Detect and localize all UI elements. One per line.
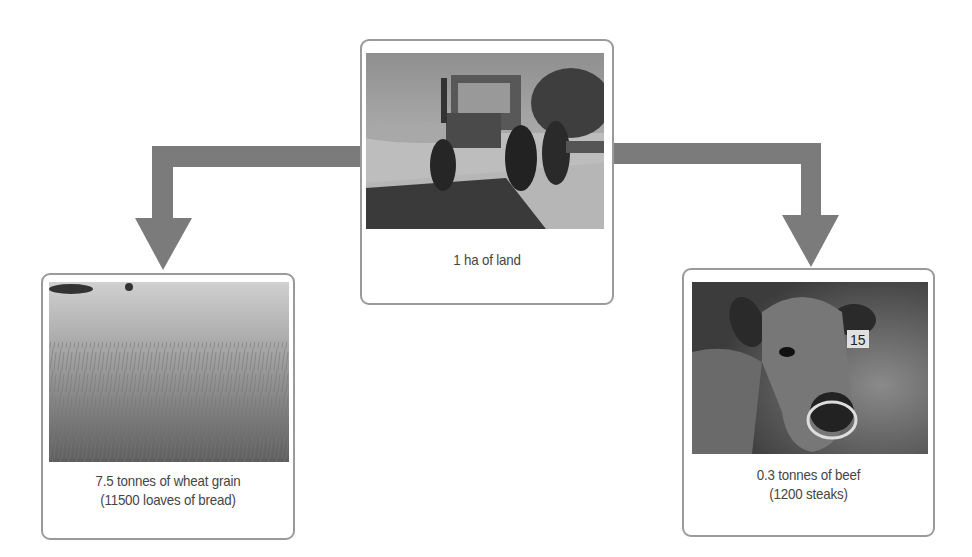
ear-tag-number: 15	[850, 332, 866, 348]
arrow-to-beef	[613, 143, 839, 267]
cow-icon: 15	[692, 282, 928, 454]
wheat-caption-line1: 7.5 tonnes of wheat grain	[53, 472, 283, 491]
land-card: 1 ha of land	[360, 39, 614, 305]
beef-caption-line2: (1200 steaks)	[694, 485, 923, 504]
land-caption: 1 ha of land	[372, 251, 602, 270]
tractor-icon	[366, 53, 604, 229]
cow-photo: 15	[692, 282, 928, 454]
wheat-icon	[49, 282, 289, 462]
beef-caption-line1: 0.3 tonnes of beef	[694, 466, 923, 485]
wheat-caption-line2: (11500 loaves of bread)	[53, 491, 283, 510]
beef-card: 15 0.3 tonnes of beef (1200 steaks)	[682, 268, 935, 537]
arrow-to-wheat	[135, 146, 360, 270]
wheat-card: 7.5 tonnes of wheat grain (11500 loaves …	[41, 273, 295, 540]
tractor-photo	[366, 53, 604, 229]
wheat-field-photo	[49, 282, 289, 462]
